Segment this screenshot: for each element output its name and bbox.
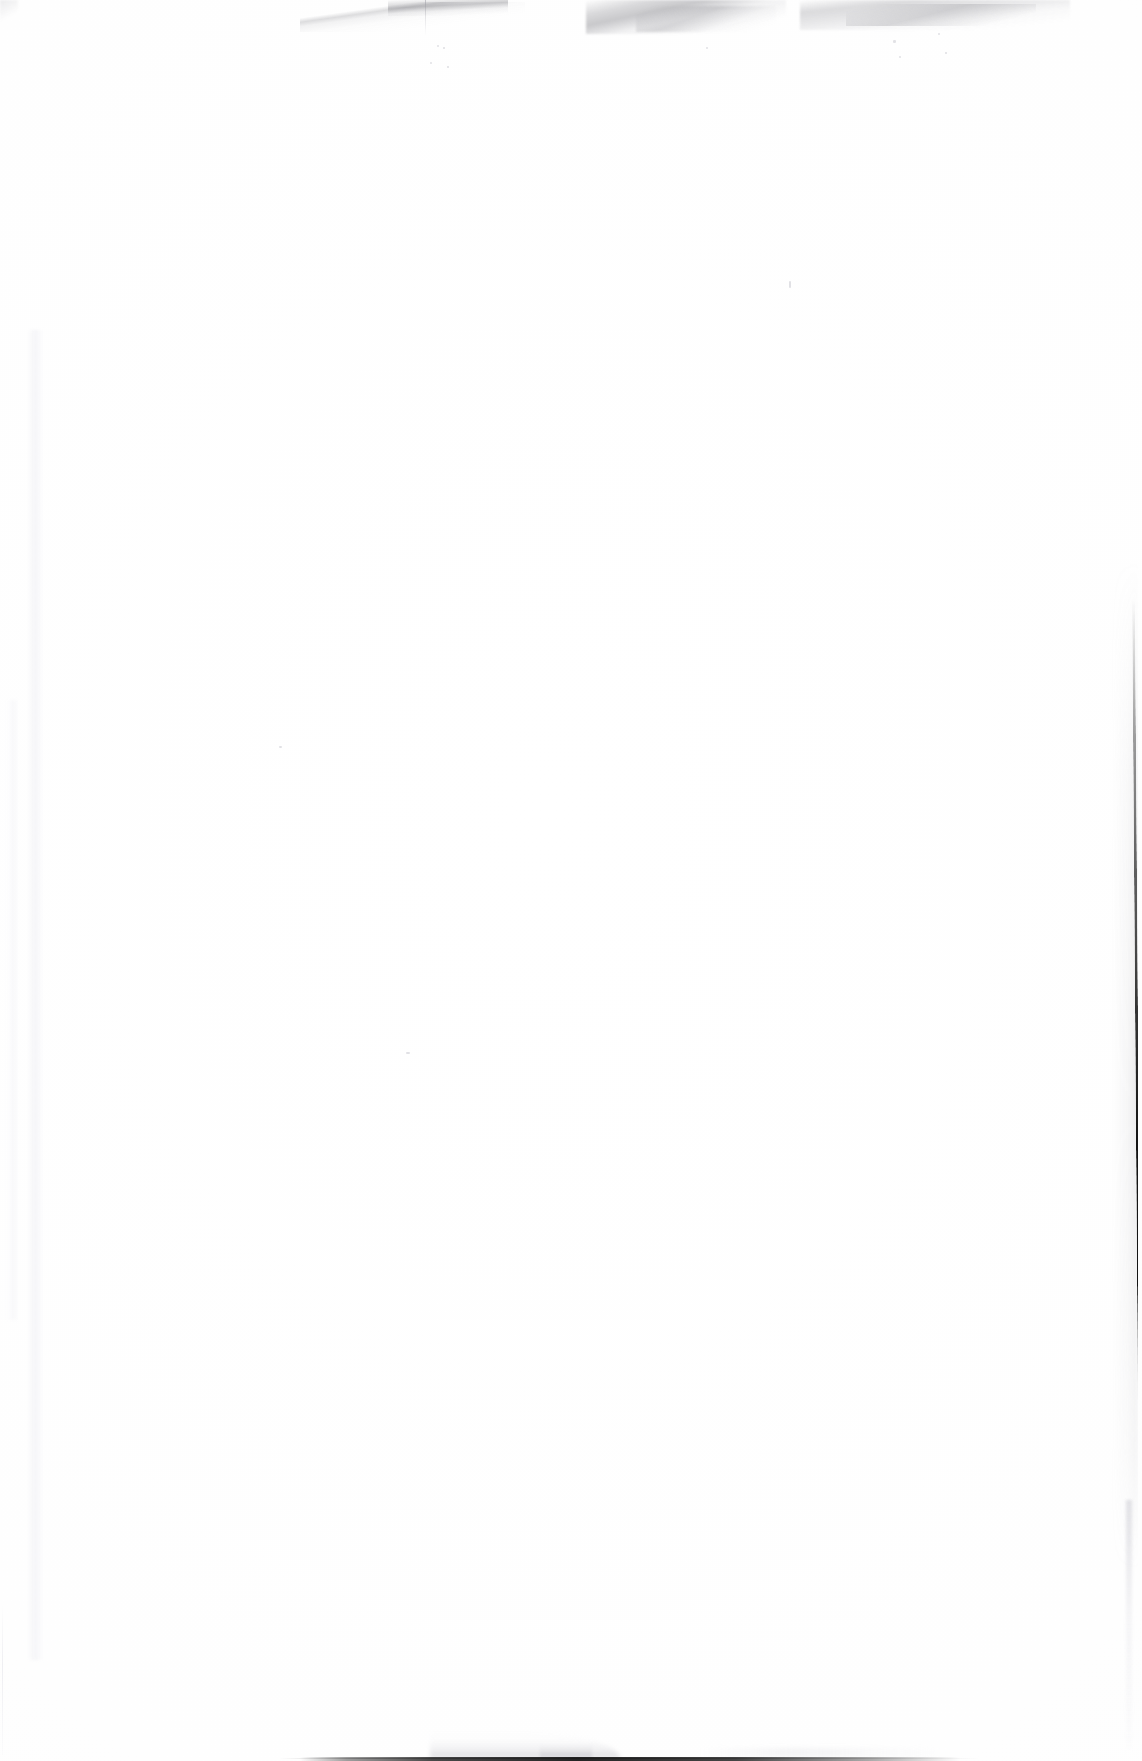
speck-artifact — [437, 45, 439, 47]
speck-artifact — [279, 746, 282, 748]
right-edge-faint-tail — [1126, 1500, 1132, 1750]
speck-artifact — [893, 40, 896, 43]
top-edge-wisp-cluster-a — [300, 2, 525, 32]
speck-artifact — [406, 1052, 410, 1054]
left-edge-hairline-artifact — [2, 1605, 3, 1755]
top-edge-wisp-cluster-a-inner — [388, 0, 508, 16]
top-edge-wisp-cluster-b — [586, 0, 786, 34]
bottom-edge-dark-line — [300, 1757, 960, 1761]
left-edge-streak-artifact-secondary — [8, 700, 18, 1320]
scanned-page — [0, 0, 1142, 1761]
speck-artifact — [443, 47, 445, 49]
bottom-edge-soft-line — [280, 1758, 980, 1759]
left-edge-streak-artifact — [28, 330, 42, 1660]
speck-artifact — [945, 52, 947, 54]
bottom-edge-smear-artifact — [700, 1748, 940, 1757]
top-left-corner-nick-artifact — [0, 0, 18, 22]
speck-artifact — [938, 33, 940, 35]
speck-artifact — [899, 56, 901, 58]
top-edge-wisp-cluster-c — [800, 0, 1070, 30]
top-edge-wisp-cluster-b-inner — [636, 6, 776, 32]
page-body-blank — [0, 0, 1142, 1761]
speck-artifact — [430, 62, 432, 64]
top-edge-vertical-tick-artifact — [425, 0, 426, 36]
right-edge-shadow-halo — [1112, 560, 1138, 1570]
bottom-edge-lifted-paper-wedge — [430, 1732, 620, 1758]
top-edge-wisp-cluster-c-inner — [846, 4, 1036, 26]
right-edge-dark-line — [1129, 600, 1138, 1530]
bottom-edge-lifted-paper-wedge-inner — [540, 1742, 592, 1758]
speck-artifact — [789, 281, 791, 288]
speck-artifact — [706, 47, 708, 49]
speck-artifact — [447, 66, 449, 68]
